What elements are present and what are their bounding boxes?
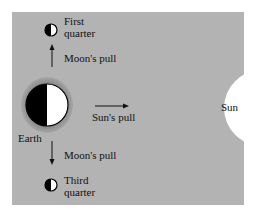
moon-pull-bottom-label: Moon's pull	[64, 150, 116, 161]
moon-pull-top-label: Moon's pull	[64, 53, 116, 64]
first-quarter-label-line1: First	[64, 16, 84, 27]
arrow-down-icon	[50, 141, 55, 165]
earth-icon	[21, 77, 73, 133]
arrow-right-icon	[95, 104, 129, 109]
first-quarter-moon-icon	[45, 24, 57, 36]
tide-diagram	[0, 0, 254, 215]
third-quarter-label-line2: quarter	[64, 187, 95, 198]
arrow-up-icon	[50, 44, 55, 67]
suns-pull-label: Sun's pull	[92, 112, 135, 123]
first-quarter-label-line2: quarter	[64, 28, 95, 39]
earth-label: Earth	[18, 133, 42, 144]
third-quarter-label-line1: Third	[64, 175, 88, 186]
sun-label: Sun	[221, 102, 238, 113]
third-quarter-moon-icon	[45, 179, 57, 191]
